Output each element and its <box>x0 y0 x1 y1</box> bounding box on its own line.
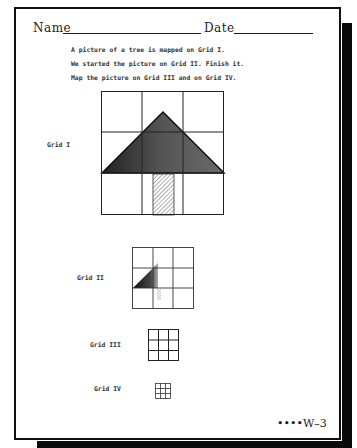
date-field[interactable] <box>234 33 313 34</box>
grid-2-lines <box>132 247 194 309</box>
grid-1-label: Grid I <box>47 141 70 149</box>
grid-4[interactable] <box>155 383 171 399</box>
worksheet-page <box>14 7 341 440</box>
grid-3-label: Grid III <box>90 341 121 349</box>
tree-crown <box>102 112 224 173</box>
page-shadow-right <box>342 23 352 448</box>
instruction-line-1: A picture of a tree is mapped on Grid I. <box>71 46 225 54</box>
grid-3-lines <box>148 329 179 361</box>
instruction-line-2: We started the picture on Grid II. Finis… <box>71 60 244 68</box>
instruction-line-3: Map the picture on Grid III and on Grid … <box>71 74 236 82</box>
partial-tree-crown <box>133 263 158 288</box>
grid-4-lines <box>155 383 171 399</box>
grid-1 <box>101 91 224 215</box>
page-marker: ••••W–3 <box>277 417 327 430</box>
grid-2[interactable] <box>132 247 194 309</box>
date-label: Date <box>204 21 235 35</box>
grid-4-label: Grid IV <box>94 385 121 393</box>
grid-3[interactable] <box>148 329 179 361</box>
partial-tree-trunk <box>157 289 161 300</box>
page-shadow-bottom <box>37 441 352 448</box>
tree-trunk <box>153 174 174 215</box>
name-field[interactable] <box>63 33 201 34</box>
grid-2-label: Grid II <box>77 274 104 282</box>
